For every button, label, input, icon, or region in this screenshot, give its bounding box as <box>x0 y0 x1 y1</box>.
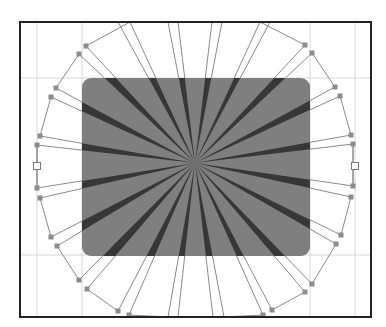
ray-edge-line <box>285 256 312 284</box>
ray-edge-line <box>86 46 116 78</box>
outline-segment <box>260 22 305 45</box>
gray-rounded-rectangle[interactable] <box>82 78 310 256</box>
anchor-point-handle[interactable] <box>77 52 82 57</box>
outline-segment <box>341 197 351 235</box>
ray-edge-line <box>213 256 224 317</box>
anchor-point-handle[interactable] <box>54 86 59 91</box>
ray-edge-line <box>40 189 82 198</box>
anchor-point-handle[interactable] <box>55 244 60 249</box>
ray-edge-line <box>274 45 305 78</box>
outline-segment <box>40 97 51 136</box>
anchor-point-handle[interactable] <box>49 95 54 100</box>
ray-edge-line <box>168 256 179 317</box>
ray-edge-line <box>310 229 336 244</box>
anchor-point-handle[interactable] <box>49 235 54 240</box>
anchor-point-handle[interactable] <box>351 142 356 147</box>
outline-segment <box>56 54 79 88</box>
anchor-point-handle[interactable] <box>333 85 338 90</box>
anchor-point-handle[interactable] <box>116 309 121 314</box>
anchor-point-handle[interactable] <box>334 242 339 247</box>
outline-segment <box>86 22 130 46</box>
outline-segment <box>272 292 305 310</box>
starburst-illustration <box>0 0 386 327</box>
anchor-point-handle[interactable] <box>77 278 82 283</box>
anchor-point-handle[interactable] <box>338 94 343 99</box>
anchor-point-handle[interactable] <box>339 233 344 238</box>
anchor-point-handle[interactable] <box>349 195 354 200</box>
ray-edge-line <box>310 135 351 142</box>
ray-edge-line <box>310 188 351 197</box>
ray-edge-line <box>234 22 260 78</box>
ray-edge-line <box>240 22 270 78</box>
ray-edge-line <box>79 54 105 78</box>
vector-canvas <box>0 0 386 327</box>
ray-edge-line <box>206 256 213 317</box>
side-handle[interactable] <box>352 163 359 170</box>
ray-edge-line <box>168 22 179 78</box>
anchor-point-handle[interactable] <box>84 44 89 49</box>
ray-edge-line <box>244 256 272 310</box>
outline-segment <box>40 198 51 237</box>
anchor-point-handle[interactable] <box>349 133 354 138</box>
outline-segment <box>312 53 335 87</box>
ray-edge-line <box>205 22 212 78</box>
ray-edge-line <box>310 87 335 101</box>
ray-edge-line <box>37 181 82 188</box>
ray-edge-line <box>56 88 82 102</box>
ray-edge-line <box>285 53 312 78</box>
outline-segment <box>87 289 118 311</box>
anchor-point-handle[interactable] <box>35 143 40 148</box>
ray-edge-line <box>310 180 353 186</box>
ray-edge-line <box>118 22 149 78</box>
ray-edge-line <box>40 136 82 143</box>
anchor-point-handle[interactable] <box>351 184 356 189</box>
outline-segment <box>57 246 79 280</box>
ray-edge-line <box>130 22 156 78</box>
anchor-point-handle[interactable] <box>38 196 43 201</box>
outline-segment <box>312 244 336 284</box>
anchor-point-handle[interactable] <box>303 290 308 295</box>
ray-edge-line <box>37 145 82 150</box>
ray-edge-line <box>211 22 222 78</box>
ray-edge-line <box>178 256 185 317</box>
ray-edge-line <box>310 220 341 235</box>
anchor-point-handle[interactable] <box>38 134 43 139</box>
anchor-point-handle[interactable] <box>35 186 40 191</box>
ray-edge-line <box>79 256 103 280</box>
anchor-point-handle[interactable] <box>310 282 315 287</box>
anchor-point-handle[interactable] <box>310 51 315 56</box>
side-handle[interactable] <box>34 163 41 170</box>
anchor-point-handle[interactable] <box>270 308 275 313</box>
outline-segment <box>340 96 351 135</box>
anchor-point-handle[interactable] <box>85 287 90 292</box>
ray-edge-line <box>51 221 82 237</box>
ray-edge-line <box>87 256 115 289</box>
ray-edge-line <box>178 22 185 78</box>
ray-edge-line <box>57 231 82 246</box>
ray-edge-line <box>310 144 353 149</box>
anchor-point-handle[interactable] <box>303 43 308 48</box>
